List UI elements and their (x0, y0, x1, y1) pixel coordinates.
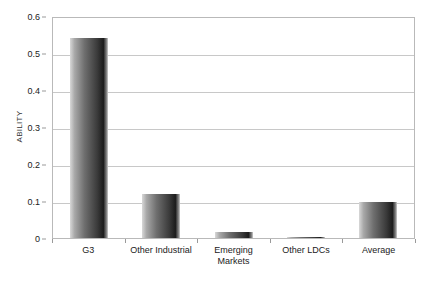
x-tick-mark (52, 239, 53, 243)
y-tick-label: 0 (35, 234, 40, 244)
x-tick-mark (197, 239, 198, 243)
y-tick-label: 0.3 (27, 123, 40, 133)
y-tick-mark (42, 17, 46, 18)
y-tick-mark (42, 202, 46, 203)
x-axis-ticks (52, 239, 415, 244)
y-tick-mark (42, 165, 46, 166)
bar (70, 38, 108, 238)
x-category-label-line: Other Industrial (125, 245, 198, 256)
x-category-label-line: Average (342, 245, 415, 256)
x-category-label: EmergingMarkets (197, 245, 270, 267)
plot-area (52, 17, 415, 239)
bar-slot (270, 18, 342, 238)
x-tick-mark (270, 239, 271, 243)
bar-slot (342, 18, 414, 238)
bar-series (53, 18, 414, 238)
y-tick-label: 0.1 (27, 197, 40, 207)
x-tick-mark (415, 239, 416, 243)
bar (287, 237, 325, 238)
bar-slot (125, 18, 197, 238)
y-tick-label: 0.4 (27, 86, 40, 96)
y-tick-mark (42, 91, 46, 92)
y-tick-mark (42, 54, 46, 55)
x-tick-mark (342, 239, 343, 243)
x-category-label: Other LDCs (270, 245, 343, 267)
x-category-label: G3 (52, 245, 125, 267)
bar-slot (197, 18, 269, 238)
y-tick-label: 0.6 (27, 12, 40, 22)
bar (142, 194, 180, 238)
x-category-label-line: Other LDCs (270, 245, 343, 256)
x-category-label: Average (342, 245, 415, 267)
x-tick-mark (125, 239, 126, 243)
bar (215, 232, 253, 238)
y-tick-mark (42, 239, 46, 240)
x-category-label-line: G3 (52, 245, 125, 256)
x-axis-labels: G3Other IndustrialEmergingMarketsOther L… (52, 245, 415, 267)
y-tick-label: 0.5 (27, 49, 40, 59)
y-tick-label: 0.2 (27, 160, 40, 170)
y-tick-mark (42, 128, 46, 129)
x-category-label-line: Emerging (197, 245, 270, 256)
y-axis-ticks: 0.60.50.40.30.20.10 (0, 17, 46, 239)
bar-chart: ABILITY 0.60.50.40.30.20.10 G3Other Indu… (0, 0, 439, 281)
bar (359, 202, 397, 238)
x-category-label: Other Industrial (125, 245, 198, 267)
bar-slot (53, 18, 125, 238)
x-category-label-line: Markets (197, 256, 270, 267)
